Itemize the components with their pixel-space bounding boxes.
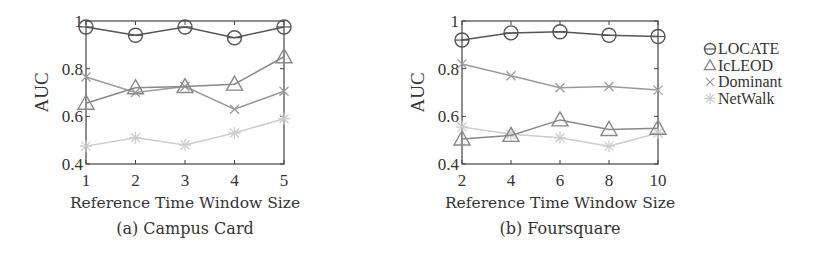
x-tick-label: 2	[131, 171, 140, 190]
x-tick-label: 8	[605, 171, 614, 190]
x-tick-label: 10	[650, 171, 667, 190]
x-marker-icon	[230, 105, 239, 114]
legend-item-locate: LOCATE	[705, 40, 780, 57]
chart-foursquare: 2468100.40.60.81AUCReference Time Window…	[407, 12, 675, 238]
circle-marker-icon	[504, 26, 518, 40]
legend-item-icleod: IcLEOD	[705, 57, 774, 74]
x-tick-label: 6	[556, 171, 565, 190]
x-marker-icon	[706, 78, 714, 86]
y-tick-label: 0.6	[62, 107, 83, 126]
chart-caption: (a) Campus Card	[116, 219, 254, 238]
y-tick-label: 0.6	[438, 107, 459, 126]
legend-label: IcLEOD	[718, 57, 773, 74]
circle-marker-icon	[228, 31, 242, 45]
circle-marker-icon	[553, 25, 567, 39]
chart-campus-card: 123450.40.60.81AUCReference Time Window …	[31, 12, 300, 238]
legend-label: NetWalk	[718, 90, 774, 107]
circle-marker-icon	[705, 44, 716, 55]
triangle-marker-icon	[227, 76, 243, 90]
legend-label: LOCATE	[718, 40, 779, 57]
figure: 123450.40.60.81AUCReference Time Window …	[0, 0, 824, 267]
triangle-marker-icon	[705, 60, 716, 70]
y-tick-label: 0.4	[62, 155, 84, 174]
series-dominant	[458, 59, 663, 94]
triangle-marker-icon	[552, 112, 568, 126]
star-marker-icon	[179, 139, 191, 151]
x-axis-label: Reference Time Window Size	[445, 194, 675, 212]
series-locate	[455, 25, 665, 47]
legend: LOCATEIcLEODDominantNetWalk	[705, 40, 783, 107]
y-tick-label: 1	[451, 12, 460, 31]
star-marker-icon	[603, 140, 615, 152]
star-marker-icon	[278, 113, 290, 125]
series-netwalk	[80, 113, 290, 152]
y-tick-label: 0.8	[62, 60, 83, 79]
legend-item-netwalk: NetWalk	[705, 90, 775, 107]
star-marker-icon	[705, 93, 716, 104]
circle-marker-icon	[602, 28, 616, 42]
x-tick-label: 4	[507, 171, 516, 190]
star-marker-icon	[130, 132, 142, 144]
x-axis-label: Reference Time Window Size	[70, 194, 300, 212]
star-marker-icon	[80, 140, 92, 152]
y-tick-label: 0.4	[438, 155, 460, 174]
x-tick-label: 4	[230, 171, 239, 190]
x-tick-label: 5	[280, 171, 289, 190]
star-marker-icon	[229, 127, 241, 139]
circle-marker-icon	[129, 28, 143, 42]
legend-label: Dominant	[718, 73, 783, 90]
x-tick-label: 2	[458, 171, 467, 190]
legend-item-dominant: Dominant	[706, 73, 783, 90]
y-tick-label: 0.8	[438, 60, 459, 79]
x-tick-label: 3	[181, 171, 190, 190]
y-axis-label: AUC	[407, 72, 428, 112]
star-marker-icon	[554, 132, 566, 144]
y-axis-label: AUC	[31, 72, 52, 112]
chart-caption: (b) Foursquare	[499, 219, 620, 238]
x-tick-label: 1	[82, 171, 91, 190]
